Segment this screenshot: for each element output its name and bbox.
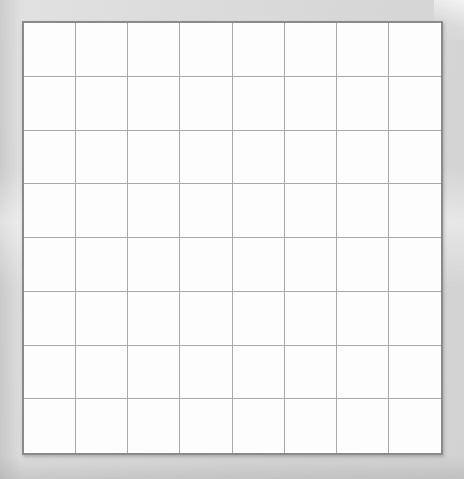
grid-cell-r1c4[interactable]: [180, 23, 232, 77]
grid-cell-r6c3[interactable]: [128, 292, 180, 346]
grid-cell-r8c5[interactable]: [233, 399, 285, 453]
grid-cell-r5c8[interactable]: [389, 238, 441, 292]
grid-cell-r1c7[interactable]: [337, 23, 389, 77]
grid-cell-r8c6[interactable]: [285, 399, 337, 453]
grid-cell-r7c7[interactable]: [337, 346, 389, 400]
paper-sheet: [0, 0, 464, 479]
grid-cell-r4c6[interactable]: [285, 184, 337, 238]
grid-cell-r8c2[interactable]: [76, 399, 128, 453]
grid-cell-r4c1[interactable]: [24, 184, 76, 238]
grid-cell-r6c5[interactable]: [233, 292, 285, 346]
grid-cell-r3c7[interactable]: [337, 131, 389, 185]
grid-cell-r4c3[interactable]: [128, 184, 180, 238]
grid-cell-r7c2[interactable]: [76, 346, 128, 400]
grid-cell-r2c7[interactable]: [337, 77, 389, 131]
grid-cell-r7c4[interactable]: [180, 346, 232, 400]
paper-bottom-shadow: [0, 455, 464, 479]
grid-cell-r3c2[interactable]: [76, 131, 128, 185]
grid-cell-r2c1[interactable]: [24, 77, 76, 131]
grid-cell-r3c6[interactable]: [285, 131, 337, 185]
grid-cell-r8c8[interactable]: [389, 399, 441, 453]
grid-cell-r7c3[interactable]: [128, 346, 180, 400]
grid-cell-r2c8[interactable]: [389, 77, 441, 131]
puzzle-grid[interactable]: [22, 21, 443, 455]
grid-cell-r8c3[interactable]: [128, 399, 180, 453]
grid-cell-r8c1[interactable]: [24, 399, 76, 453]
grid-cell-r1c5[interactable]: [233, 23, 285, 77]
grid-cell-r4c4[interactable]: [180, 184, 232, 238]
grid-cell-r5c7[interactable]: [337, 238, 389, 292]
grid-cell-r7c5[interactable]: [233, 346, 285, 400]
grid-cell-r2c4[interactable]: [180, 77, 232, 131]
grid-cell-r3c4[interactable]: [180, 131, 232, 185]
grid-cell-r3c3[interactable]: [128, 131, 180, 185]
grid-cell-r3c5[interactable]: [233, 131, 285, 185]
grid-cell-r6c7[interactable]: [337, 292, 389, 346]
grid-cell-r1c6[interactable]: [285, 23, 337, 77]
grid-cell-r5c5[interactable]: [233, 238, 285, 292]
grid-cell-r6c4[interactable]: [180, 292, 232, 346]
grid-cell-r4c8[interactable]: [389, 184, 441, 238]
grid-cell-r5c1[interactable]: [24, 238, 76, 292]
grid-cell-r7c1[interactable]: [24, 346, 76, 400]
grid-cell-r5c2[interactable]: [76, 238, 128, 292]
grid-cell-r4c7[interactable]: [337, 184, 389, 238]
grid-cell-r3c1[interactable]: [24, 131, 76, 185]
grid-cell-r7c8[interactable]: [389, 346, 441, 400]
grid-cell-r1c1[interactable]: [24, 23, 76, 77]
grid-cell-r1c8[interactable]: [389, 23, 441, 77]
grid-cell-r4c2[interactable]: [76, 184, 128, 238]
grid-cell-r7c6[interactable]: [285, 346, 337, 400]
grid-cell-r8c4[interactable]: [180, 399, 232, 453]
grid-cell-r4c5[interactable]: [233, 184, 285, 238]
grid-cell-r1c2[interactable]: [76, 23, 128, 77]
grid-cell-r2c5[interactable]: [233, 77, 285, 131]
grid-cell-r6c8[interactable]: [389, 292, 441, 346]
grid-cell-r2c6[interactable]: [285, 77, 337, 131]
grid-cell-r5c4[interactable]: [180, 238, 232, 292]
grid-cell-r6c1[interactable]: [24, 292, 76, 346]
grid-cell-r6c6[interactable]: [285, 292, 337, 346]
grid-cell-r5c3[interactable]: [128, 238, 180, 292]
grid-cell-r2c3[interactable]: [128, 77, 180, 131]
grid-cell-r3c8[interactable]: [389, 131, 441, 185]
grid-cell-r2c2[interactable]: [76, 77, 128, 131]
paper-left-shadow: [0, 0, 22, 479]
grid-cell-r6c2[interactable]: [76, 292, 128, 346]
grid-cell-r8c7[interactable]: [337, 399, 389, 453]
grid-cell-r5c6[interactable]: [285, 238, 337, 292]
grid-cell-r1c3[interactable]: [128, 23, 180, 77]
